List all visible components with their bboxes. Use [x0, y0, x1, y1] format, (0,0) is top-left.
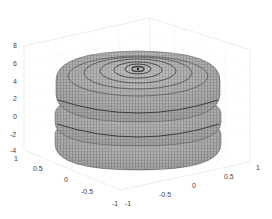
x-tick-neg1: -1: [112, 200, 118, 207]
surface-mesh: [55, 51, 221, 170]
y-tick-neg1: -1: [125, 200, 131, 207]
y-tick-0: 0: [192, 182, 196, 189]
z-tick-8: 8: [13, 42, 17, 49]
z-tick-neg2: -2: [10, 131, 16, 138]
z-axis-ticks: 8 6 4 2 0 -2 -4: [10, 42, 17, 154]
y-tick-neg0.5: -0.5: [159, 191, 171, 198]
z-tick-6: 6: [13, 60, 17, 67]
x-tick-0.5: 0.5: [33, 165, 43, 172]
surface-plot-3d: 8 6 4 2 0 -2 -4 1 0.5 0 -0.5 -1 -1 -0.5 …: [0, 0, 272, 219]
x-tick-0: 0: [64, 176, 68, 183]
x-tick-neg0.5: -0.5: [81, 188, 93, 195]
x-tick-1: 1: [14, 155, 18, 162]
y-axis-ticks: -1 -0.5 0 0.5 1: [125, 164, 260, 207]
z-tick-neg4: -4: [10, 147, 16, 154]
z-tick-2: 2: [13, 95, 17, 102]
y-tick-1: 1: [256, 164, 260, 171]
surface-layer-top: [56, 51, 220, 122]
z-tick-0: 0: [13, 113, 17, 120]
y-tick-0.5: 0.5: [224, 173, 234, 180]
z-tick-4: 4: [13, 78, 17, 85]
